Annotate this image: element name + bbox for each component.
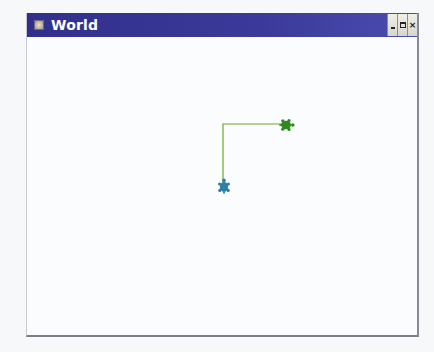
turtle-world-drawing <box>27 37 418 335</box>
window-controls: × <box>387 14 417 36</box>
turtle-trail-line <box>223 124 284 186</box>
maximize-icon <box>400 22 406 28</box>
minimize-icon <box>391 27 395 29</box>
world-canvas[interactable] <box>27 37 417 335</box>
close-button[interactable]: × <box>407 14 417 36</box>
green-turtle-icon[interactable] <box>279 119 294 131</box>
title-bar[interactable]: World × <box>27 13 417 37</box>
maximize-button[interactable] <box>397 14 407 36</box>
app-window-icon[interactable] <box>34 20 44 30</box>
minimize-button[interactable] <box>387 14 397 36</box>
close-icon: × <box>409 21 417 30</box>
world-window: World × <box>26 13 419 337</box>
window-title: World <box>51 17 98 33</box>
blue-turtle-icon[interactable] <box>218 179 230 194</box>
